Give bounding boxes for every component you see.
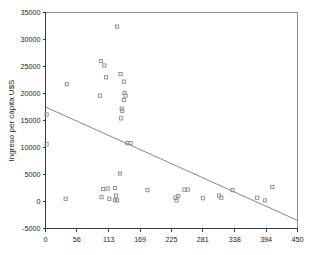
data-point-marker	[106, 187, 109, 190]
x-tick-label: 113	[103, 235, 114, 244]
y-tick-label: 15000	[21, 116, 41, 125]
data-point-marker	[263, 199, 266, 202]
data-point-marker	[146, 189, 149, 192]
data-point-marker	[256, 196, 259, 199]
data-point-marker	[98, 94, 101, 97]
y-tick-label: 25000	[21, 62, 41, 71]
y-tick-label: 10000	[21, 143, 41, 152]
data-point-marker	[104, 76, 107, 79]
data-point-marker	[116, 25, 119, 28]
x-tick-label: 338	[229, 235, 241, 244]
y-tick-label: 20000	[21, 89, 41, 98]
data-point-marker	[118, 172, 121, 175]
data-point-marker	[113, 186, 116, 189]
x-tick-label: 394	[260, 235, 272, 244]
x-tick-label: 0	[44, 235, 48, 244]
data-point-marker	[122, 80, 125, 83]
regression-line	[46, 107, 298, 220]
x-tick-label: 225	[166, 235, 178, 244]
data-point-marker	[119, 72, 122, 75]
data-point-marker	[108, 197, 111, 200]
y-tick-label: 35000	[21, 8, 41, 17]
data-point-marker	[271, 185, 274, 188]
y-tick-label: 30000	[21, 35, 41, 44]
x-tick-label: 169	[134, 235, 146, 244]
data-point-marker	[122, 98, 125, 101]
data-point-marker	[186, 188, 189, 191]
data-point-marker	[120, 117, 123, 120]
data-point-marker	[99, 60, 102, 63]
data-point-marker	[65, 83, 68, 86]
data-point-marker	[220, 196, 223, 199]
data-point-marker	[114, 194, 117, 197]
data-point-marker	[183, 188, 186, 191]
x-tick-label: 281	[197, 235, 209, 244]
data-point-marker	[218, 194, 221, 197]
data-point-marker	[201, 197, 204, 200]
data-point-marker	[64, 197, 67, 200]
data-point-marker	[102, 187, 105, 190]
data-point-marker	[129, 142, 132, 145]
chart-canvas: -500005000100001500020000250003000035000…	[0, 0, 311, 255]
x-tick-label: 450	[292, 235, 304, 244]
data-point-marker	[103, 64, 106, 67]
scatter-plot-figure: -500005000100001500020000250003000035000…	[0, 0, 311, 255]
x-tick-label: 56	[73, 235, 81, 244]
y-tick-label: 0	[37, 197, 41, 206]
data-point-marker	[100, 196, 103, 199]
y-tick-label: -5000	[22, 224, 40, 233]
y-tick-label: 5000	[25, 170, 41, 179]
y-axis-title: Ingreso per cápita U$S	[7, 80, 16, 162]
